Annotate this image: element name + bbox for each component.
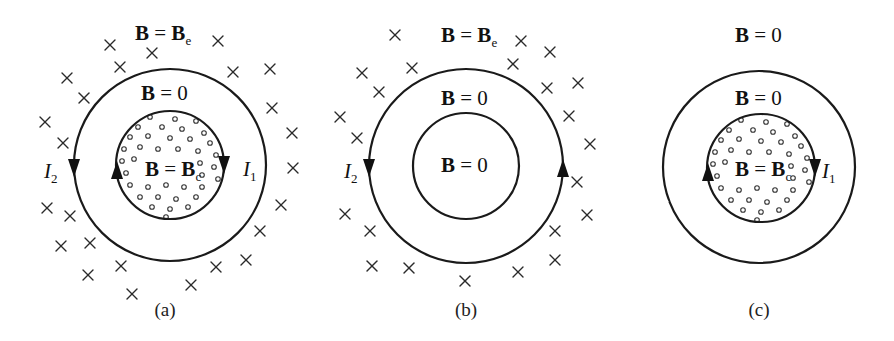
annulus-field-label: B = 0 bbox=[141, 81, 188, 105]
field-out-of-page-icon bbox=[120, 159, 125, 164]
field-into-page-icon bbox=[357, 68, 367, 78]
field-out-of-page-icon bbox=[128, 183, 133, 188]
diagram-canvas: I2I1B = BeB = 0B = Bc(a)I2B = BeB = 0B =… bbox=[0, 0, 894, 341]
field-into-page-icon bbox=[573, 78, 583, 88]
field-into-page-icon bbox=[545, 47, 555, 57]
field-out-of-page-icon bbox=[799, 144, 804, 149]
field-into-page-icon bbox=[367, 261, 377, 271]
field-out-of-page-icon bbox=[759, 139, 764, 144]
field-out-of-page-icon bbox=[202, 131, 207, 136]
field-out-of-page-icon bbox=[779, 140, 784, 145]
field-out-of-page-icon bbox=[174, 197, 179, 202]
field-into-page-icon bbox=[42, 203, 52, 213]
field-out-of-page-icon bbox=[138, 145, 143, 150]
current-label: I2 bbox=[343, 159, 358, 186]
field-out-of-page-icon bbox=[765, 200, 770, 205]
field-out-of-page-icon bbox=[176, 147, 181, 152]
field-out-of-page-icon bbox=[764, 120, 769, 125]
field-out-of-page-icon bbox=[755, 186, 760, 191]
field-out-of-page-icon bbox=[196, 149, 201, 154]
field-into-page-icon bbox=[276, 200, 286, 210]
field-out-of-page-icon bbox=[715, 174, 720, 179]
field-into-page-icon bbox=[65, 211, 75, 221]
field-into-page-icon bbox=[115, 62, 125, 72]
field-into-page-icon bbox=[56, 241, 66, 251]
field-into-page-icon bbox=[127, 289, 137, 299]
field-out-of-page-icon bbox=[759, 210, 764, 215]
field-out-of-page-icon bbox=[212, 165, 217, 170]
field-into-page-icon bbox=[564, 111, 574, 121]
field-out-of-page-icon bbox=[168, 136, 173, 141]
panel-b: I2B = BeB = 0B = 0(b) bbox=[335, 23, 595, 321]
field-out-of-page-icon bbox=[180, 127, 185, 132]
field-into-page-icon bbox=[40, 117, 50, 127]
field-out-of-page-icon bbox=[737, 188, 742, 193]
field-out-of-page-icon bbox=[122, 147, 127, 152]
field-into-page-icon bbox=[542, 83, 552, 93]
field-into-page-icon bbox=[352, 133, 362, 143]
field-out-of-page-icon bbox=[160, 125, 165, 130]
field-into-page-icon bbox=[83, 270, 93, 280]
field-into-page-icon bbox=[62, 73, 72, 83]
current-arrow-up-icon bbox=[557, 159, 569, 177]
annulus-field-label: B = 0 bbox=[735, 86, 782, 110]
field-out-of-page-icon bbox=[186, 205, 191, 210]
field-out-of-page-icon bbox=[767, 150, 772, 155]
field-out-of-page-icon bbox=[729, 198, 734, 203]
field-out-of-page-icon bbox=[216, 177, 221, 182]
field-into-page-icon bbox=[508, 59, 518, 69]
field-out-of-page-icon bbox=[791, 188, 796, 193]
field-out-of-page-icon bbox=[168, 207, 173, 212]
field-out-of-page-icon bbox=[803, 168, 808, 173]
field-out-of-page-icon bbox=[771, 130, 776, 135]
panel-caption: (c) bbox=[748, 299, 769, 321]
field-out-of-page-icon bbox=[737, 137, 742, 142]
field-out-of-page-icon bbox=[150, 205, 155, 210]
field-out-of-page-icon bbox=[124, 171, 129, 176]
current-arrow-down-icon bbox=[363, 159, 375, 177]
panel-caption: (a) bbox=[154, 299, 175, 321]
current-arrow-down-icon bbox=[809, 159, 821, 177]
panel-caption: (b) bbox=[455, 299, 477, 321]
field-out-of-page-icon bbox=[173, 117, 178, 122]
field-into-page-icon bbox=[267, 103, 277, 113]
field-out-of-page-icon bbox=[793, 134, 798, 139]
outside-field-label: B = 0 bbox=[735, 23, 782, 47]
field-out-of-page-icon bbox=[156, 147, 161, 152]
field-out-of-page-icon bbox=[723, 160, 728, 165]
field-into-page-icon bbox=[116, 261, 126, 271]
field-out-of-page-icon bbox=[789, 164, 794, 169]
field-into-page-icon bbox=[335, 112, 345, 122]
field-out-of-page-icon bbox=[787, 152, 792, 157]
field-out-of-page-icon bbox=[136, 125, 141, 130]
field-out-of-page-icon bbox=[805, 156, 810, 161]
field-out-of-page-icon bbox=[132, 157, 137, 162]
outer-ring-gap bbox=[661, 197, 667, 203]
field-out-of-page-icon bbox=[727, 128, 732, 133]
field-out-of-page-icon bbox=[188, 137, 193, 142]
field-out-of-page-icon bbox=[807, 180, 812, 185]
panel-a: I2I1B = BeB = 0B = Bc(a) bbox=[40, 21, 298, 321]
field-out-of-page-icon bbox=[777, 208, 782, 213]
superconducting-ring-figure: I2I1B = BeB = 0B = Bc(a)I2B = BeB = 0B =… bbox=[0, 0, 894, 341]
field-out-of-page-icon bbox=[128, 135, 133, 140]
field-out-of-page-icon bbox=[194, 195, 199, 200]
field-out-of-page-icon bbox=[200, 185, 205, 190]
field-into-page-icon bbox=[550, 226, 560, 236]
field-out-of-page-icon bbox=[729, 148, 734, 153]
field-into-page-icon bbox=[288, 163, 298, 173]
core-field-label: B = Bc bbox=[735, 157, 791, 184]
field-out-of-page-icon bbox=[156, 195, 161, 200]
core-field-label: B = Bc bbox=[145, 157, 201, 184]
field-out-of-page-icon bbox=[146, 134, 151, 139]
field-out-of-page-icon bbox=[719, 186, 724, 191]
field-into-page-icon bbox=[572, 177, 582, 187]
field-out-of-page-icon bbox=[146, 185, 151, 190]
field-into-page-icon bbox=[340, 209, 350, 219]
current-arrow-down-icon bbox=[68, 159, 80, 177]
field-into-page-icon bbox=[105, 40, 115, 50]
field-out-of-page-icon bbox=[198, 161, 203, 166]
field-into-page-icon bbox=[58, 138, 68, 148]
field-into-page-icon bbox=[85, 238, 95, 248]
field-into-page-icon bbox=[365, 226, 375, 236]
